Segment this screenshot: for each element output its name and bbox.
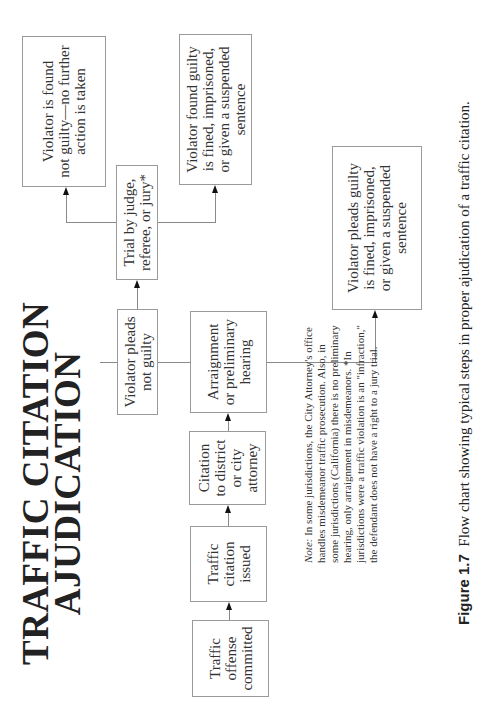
box-text: Violator found guilty bbox=[184, 46, 200, 173]
box-text: Traffic bbox=[207, 626, 223, 690]
figure-caption: Figure 1.7 Flow chart showing typical st… bbox=[455, 101, 473, 625]
box-text: referee, or jury* bbox=[137, 174, 153, 271]
box-text: not guilty—no further bbox=[56, 45, 72, 177]
box-text: sentence bbox=[393, 163, 409, 293]
note-text: In some jurisdictions, the City Attorney… bbox=[302, 325, 379, 563]
box-pleads-guilty: Violator pleads guilty is fined, impriso… bbox=[332, 146, 422, 310]
box-text: is fined, imprisoned, bbox=[200, 46, 216, 173]
arrow-right-icon bbox=[372, 310, 378, 318]
box-text: to district bbox=[212, 439, 228, 496]
arrow-right-icon bbox=[225, 505, 231, 513]
footnote: Note: In some jurisdictions, the City At… bbox=[302, 323, 380, 563]
box-text: Violator pleads guilty bbox=[345, 163, 361, 293]
connector-line bbox=[137, 288, 138, 309]
box-text: committed bbox=[239, 626, 255, 690]
connector-line bbox=[215, 193, 216, 223]
box-text: or city bbox=[228, 439, 244, 496]
box-text: Violator pleads bbox=[122, 316, 138, 407]
connector-line bbox=[66, 222, 116, 223]
box-text: Traffic bbox=[205, 542, 221, 587]
box-text: not guilty bbox=[138, 316, 154, 407]
rotated-page: TRAFFIC CITATION AJUDICATION Traffic off… bbox=[0, 0, 504, 725]
title-line-2: AJUDICATION bbox=[52, 302, 84, 665]
box-citation-to-attorney: Citation to district or city attorney bbox=[189, 431, 266, 505]
arrow-right-icon bbox=[134, 280, 140, 288]
box-text: is fined, imprisoned, bbox=[361, 163, 377, 293]
box-text: Violator is found bbox=[40, 45, 56, 177]
arrow-right-icon bbox=[212, 185, 218, 193]
box-text: or preliminary bbox=[221, 319, 237, 405]
box-text: hearing bbox=[237, 319, 253, 405]
arrow-right-icon bbox=[226, 602, 232, 610]
box-citation-issued: Traffic citation issued bbox=[190, 526, 267, 602]
box-text: sentence bbox=[232, 46, 248, 173]
box-text: offense bbox=[223, 626, 239, 690]
box-text: issued bbox=[237, 542, 253, 587]
caption-text: Flow chart showing typical steps in prop… bbox=[456, 101, 472, 546]
box-text: Arraignment bbox=[205, 319, 221, 405]
arrow-right-icon bbox=[63, 187, 69, 195]
box-text: or given a suspended bbox=[216, 46, 232, 173]
figure-label: Figure 1.7 bbox=[455, 554, 472, 625]
box-pleads-not-guilty: Violator pleads not guilty bbox=[117, 309, 158, 415]
connector-line bbox=[66, 195, 67, 223]
box-text: Citation bbox=[196, 439, 212, 496]
box-trial: Trial by judge, referee, or jury* bbox=[116, 165, 158, 280]
box-text: citation bbox=[221, 542, 237, 587]
arrow-right-icon bbox=[225, 413, 231, 421]
box-found-not-guilty: Violator is found not guilty—no further … bbox=[22, 36, 106, 187]
box-offense-committed: Traffic offense committed bbox=[192, 620, 269, 697]
connector-line bbox=[229, 610, 230, 620]
connector-line bbox=[100, 362, 117, 363]
box-found-guilty: Violator found guilty is fined, imprison… bbox=[179, 34, 252, 185]
connector-line bbox=[228, 513, 229, 526]
note-label: Note: bbox=[302, 539, 314, 563]
box-arraignment: Arraignment or preliminary hearing bbox=[190, 311, 267, 413]
diagram-title: TRAFFIC CITATION AJUDICATION bbox=[20, 302, 84, 665]
connector-line bbox=[228, 421, 229, 431]
box-text: attorney bbox=[244, 439, 260, 496]
box-text: action is taken bbox=[72, 45, 88, 177]
box-text: Trial by judge, bbox=[121, 174, 137, 271]
connector-line bbox=[158, 362, 190, 363]
connector-line bbox=[158, 222, 215, 223]
box-text: or given a suspended bbox=[377, 163, 393, 293]
